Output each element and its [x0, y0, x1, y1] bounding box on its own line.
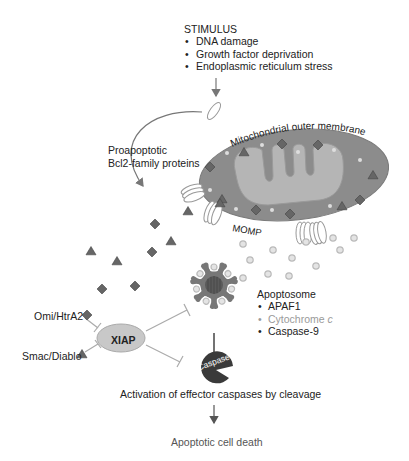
bcl2-label-line2: Bcl2-family proteins: [108, 157, 200, 170]
death-label: Apoptotic cell death: [171, 436, 263, 449]
apoptosome-item-cytochrome-c: Cytochrome c: [257, 313, 333, 326]
smac-label: Smac/Diablo: [22, 350, 82, 363]
stimulus-item: Growth factor deprivation: [184, 48, 333, 61]
stimulus-list: DNA damage Growth factor deprivation End…: [184, 35, 333, 73]
bcl2-label-line1: Proapoptotic: [108, 144, 200, 157]
apoptosome-list: APAF1 Cytochrome c Caspase-9: [257, 300, 333, 338]
apoptosome-title: Apoptosome: [257, 288, 316, 301]
apoptosome-item-caspase9: Caspase-9: [257, 325, 333, 338]
omi-label: Omi/HtrA2: [34, 310, 83, 323]
mito-pore-left: [180, 182, 206, 205]
cytochrome-label: Cytochrome c: [268, 313, 333, 325]
apoptosome-item-apaf1: APAF1: [257, 300, 333, 313]
stimulus-item: Endoplasmic reticulum stress: [184, 60, 333, 73]
stimulus-title: STIMULUS: [184, 23, 237, 36]
apoptosome-complex: [192, 264, 237, 307]
mito-pore-bottom2: [308, 221, 328, 245]
momp-label: MOMP: [232, 222, 263, 238]
bcl2-protein-shape: [205, 101, 223, 122]
bcl2-label: Proapoptotic Bcl2-family proteins: [108, 144, 200, 169]
stimulus-item: DNA damage: [184, 35, 333, 48]
activation-label: Activation of effector caspases by cleav…: [120, 388, 321, 401]
xiap-label: XIAP: [111, 334, 136, 346]
